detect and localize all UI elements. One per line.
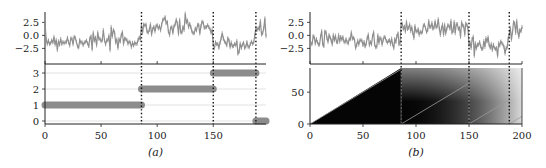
panel-b-run-length-heatmap: 050050100150200 — [291, 12, 531, 141]
x-tick-label: 150 — [459, 130, 478, 141]
x-tick-label: 200 — [512, 130, 531, 141]
signal-line — [45, 14, 266, 54]
x-tick-label: 100 — [406, 130, 425, 141]
x-tick-label: 100 — [148, 130, 167, 141]
x-tick-label: 50 — [95, 130, 108, 141]
y-tick-label: 50 — [291, 87, 304, 98]
y-tick-label: 3 — [33, 68, 39, 79]
y-tick-label: 2.5 — [288, 17, 304, 28]
y-tick-label: 0 — [33, 116, 39, 127]
figure: 2.50.0−2.5 0123050100150 (a) 2.50.0−2.5 … — [0, 0, 546, 168]
x-tick-label: 0 — [307, 130, 313, 141]
x-tick-label: 0 — [42, 130, 48, 141]
panel-b: 2.50.0−2.5 050050100150200 (b) — [280, 12, 532, 159]
x-tick-label: 150 — [204, 130, 223, 141]
y-tick-label: 0.0 — [288, 30, 304, 41]
panel-a-caption: (a) — [148, 146, 163, 159]
panel-a: 2.50.0−2.5 0123050100150 (a) — [15, 12, 266, 159]
panel-a-signal-plot: 2.50.0−2.5 — [15, 12, 266, 64]
y-tick-label: −2.5 — [280, 43, 304, 54]
y-tick-label: 2.5 — [23, 17, 39, 28]
y-tick-label: 2 — [33, 84, 39, 95]
y-tick-label: 1 — [33, 100, 39, 111]
y-tick-label: −2.5 — [15, 43, 39, 54]
heatmap-fade-vertical — [401, 68, 522, 102]
y-tick-label: 0 — [298, 119, 304, 130]
x-tick-label: 50 — [357, 130, 370, 141]
panel-b-caption: (b) — [408, 146, 424, 159]
y-tick-label: 0.0 — [23, 30, 39, 41]
